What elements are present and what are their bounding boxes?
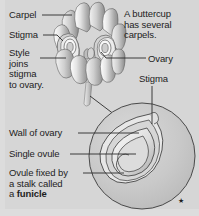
funicle-line-3-prefix: a (9, 188, 17, 199)
ovule-cross-section (89, 103, 195, 209)
label-buttercup-note: A buttercup has several carpels. (124, 9, 171, 41)
funicle-line-1: Ovule fixed by (9, 167, 68, 178)
funicle-term: funicle (17, 188, 47, 199)
label-ovary: Ovary (148, 54, 173, 65)
diagram-canvas: ★ Carpel Stigma Style joins stigma to ov… (0, 0, 199, 216)
label-funicle-block: Ovule fixed bya stalk calleda funicle (9, 168, 68, 200)
label-single-ovule: Single ovule (9, 149, 60, 160)
carpel-cluster-illustration (54, 2, 126, 106)
label-wall-of-ovary: Wall of ovary (9, 128, 62, 139)
funicle-line-2: a stalk called (9, 178, 63, 189)
label-stigma-right: Stigma (139, 74, 168, 85)
label-style: Style joins stigma to ovary. (9, 48, 44, 90)
label-carpel: Carpel (9, 10, 36, 21)
label-stigma-left: Stigma (9, 30, 38, 41)
footnote-star-icon: ★ (178, 197, 184, 204)
